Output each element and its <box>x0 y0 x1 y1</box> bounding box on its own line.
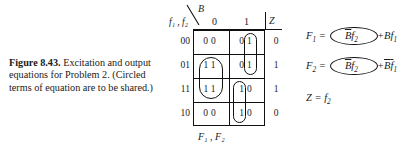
kmap-cell-10-b0: 00 <box>193 108 229 118</box>
equation-f2-term2: Bf1 <box>384 60 397 71</box>
kmap-row-divider-3 <box>193 102 265 103</box>
kmap-column-header-0: 0 <box>212 16 217 27</box>
equation-f2-plus: + <box>377 60 384 71</box>
kmap-row-label-10: 10 <box>168 108 190 118</box>
kmap-circle-b0-f2-group <box>199 57 223 99</box>
figure-caption: Figure 8.43. Excitation and output equat… <box>9 57 161 94</box>
kmap-cell-00-b0: 00 <box>193 36 229 46</box>
kmap-z-value-11: 1 <box>267 84 285 94</box>
kmap-z-value-10: 0 <box>267 108 285 118</box>
karnaugh-map: B f₁ , f₂ 0 1 Z 00 01 11 10 00 11 11 00 … <box>168 2 300 154</box>
kmap-circle-b1-f1-lower <box>233 81 246 123</box>
equation-z-equals: = <box>314 92 321 103</box>
equation-z: Z = f2 <box>306 92 331 106</box>
kmap-z-column-header: Z <box>269 15 275 26</box>
kmap-z-header-rule <box>265 29 282 30</box>
kmap-column-header-1: 1 <box>244 16 249 27</box>
equation-f2-circle <box>330 57 378 75</box>
equation-f1-lhs: F1 <box>306 30 316 41</box>
equation-z-rhs: f2 <box>324 92 331 103</box>
kmap-bottom-label: F₁ , F₂ <box>198 131 225 142</box>
equation-f1-circle <box>330 27 378 45</box>
figure-8-43: Figure 8.43. Excitation and output equat… <box>0 0 418 155</box>
kmap-diagonal-divider-icon <box>168 2 300 32</box>
equation-z-lhs: Z <box>306 92 312 103</box>
kmap-row-label-01: 01 <box>168 60 190 70</box>
equation-f1-plus: + <box>377 30 384 41</box>
equation-f1-term2: Bf1 <box>384 30 397 41</box>
equation-f1-equals: = <box>319 30 326 41</box>
kmap-row-label-00: 00 <box>168 36 190 46</box>
caption-lead: Figure 8.43. <box>9 57 61 68</box>
kmap-z-separator-line <box>265 12 266 30</box>
kmap-z-value-01: 1 <box>267 60 285 70</box>
equation-f2-equals: = <box>319 60 326 71</box>
kmap-row-label-11: 11 <box>168 84 190 94</box>
kmap-circle-b1-f2-upper <box>244 33 257 75</box>
equation-f2-lhs: F2 <box>306 60 316 71</box>
kmap-z-value-00: 0 <box>267 36 285 46</box>
equations-block: F1 = Bf2 +Bf1 F2 = Bf2 +Bf1 Z = f2 <box>302 22 418 132</box>
